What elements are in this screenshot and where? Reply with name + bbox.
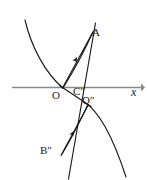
upper-parabola-arc <box>25 20 63 88</box>
label-o-double-prime: O″ <box>82 95 95 106</box>
figure-container: A O C″ O″ B″ x <box>0 0 147 180</box>
label-origin: O <box>52 90 60 101</box>
label-a: A <box>92 27 100 38</box>
x-axis-arrowhead <box>141 84 145 92</box>
lower-parabola-arc <box>84 102 126 177</box>
label-x-axis: x <box>131 86 136 98</box>
label-b-double-prime: B″ <box>40 145 52 156</box>
